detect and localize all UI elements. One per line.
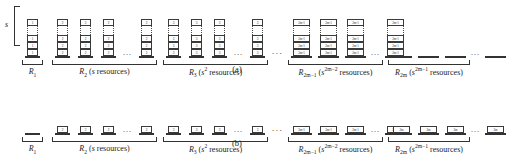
resource-cell: 3 [191,35,202,42]
resource-cell: 2 [141,19,152,26]
resource-cell: 2m-1 [347,35,364,42]
resource-cell: 2m-1 [293,35,310,42]
resource-cell: 2m-1 [293,126,310,133]
resource-stack: 2m [485,126,506,135]
resource-cell: 3 [214,35,225,42]
stack-base [485,56,506,58]
resource-cell: 2m-1 [293,49,310,56]
resource-cell: 3 [214,49,225,56]
resource-stack: 2 [55,126,70,135]
resource-cell: 2m-1 [347,42,364,49]
resource-cell: 2m-1 [347,19,364,26]
resource-cell: 2m-1 [320,35,337,42]
resource-cell: 3 [252,19,263,26]
height-brace-label: s [5,20,8,29]
resource-stack: 3 [250,126,265,135]
resource-cell: 2 [80,35,91,42]
resource-stack: 2m-12m-12m-12m-1 [345,19,366,58]
stack-gap-dots [57,26,68,35]
resource-stack: 2 [139,126,154,135]
stack-gap-dots [347,26,364,35]
stack-base [139,56,154,58]
stack-base [55,133,70,135]
resource-cell: 3 [168,42,179,49]
resource-cell: 2 [103,35,114,42]
resource-cell: 2 [103,126,114,133]
stack-row: 333...3 [163,125,268,135]
stack-base [485,133,506,135]
height-brace [14,6,20,46]
inline-ellipsis: ... [469,48,482,58]
stack-base [291,56,312,58]
resource-cell: 3 [252,42,263,49]
stack-row: 2m2m2m...2m [388,125,470,135]
resource-cell: 2 [141,35,152,42]
resource-cell: 1 [27,19,38,26]
group-separator-ellipsis: ... [272,123,283,133]
stack-row: 222222222222...2222 [52,19,157,58]
resource-stack: 2m [445,126,466,135]
resource-cell: 1 [27,49,38,56]
resource-cell: 2m [393,126,410,133]
resource-stack: 2222 [101,19,116,58]
stack-base [291,133,312,135]
resource-cell: 2m-1 [320,42,337,49]
resource-cell: 2m-1 [347,126,364,133]
resource-cell: 2m [420,126,437,133]
stack-base [189,133,204,135]
stack-row: 1111 [22,19,43,58]
stack-base [318,133,339,135]
resource-cell: 2 [57,49,68,56]
resource-cell: 2 [57,126,68,133]
inline-ellipsis: ... [121,125,134,135]
resource-stack: 2m-12m-12m-12m-1 [291,19,312,58]
resource-cell: 2m-1 [320,49,337,56]
resource-cell: 2m [447,126,464,133]
stack-base [78,133,93,135]
resource-cell: 3 [252,49,263,56]
stack-base [25,133,40,135]
stack-base [212,56,227,58]
resource-cell: 3 [168,35,179,42]
resource-stack [445,56,466,58]
resource-cell: 2 [57,19,68,26]
resource-stack: 2222 [78,19,93,58]
inline-ellipsis: ... [232,48,245,58]
resource-cell: 2 [80,19,91,26]
stack-gap-dots [103,26,114,35]
resource-stack: 2m-1 [291,126,312,135]
stack-gap-dots [80,26,91,35]
resource-cell: 2 [80,49,91,56]
stack-base [391,133,412,135]
resource-cell: 3 [214,126,225,133]
stack-base [139,133,154,135]
inline-ellipsis: ... [369,48,382,58]
resource-cell: 2 [103,42,114,49]
stack-gap-dots [27,26,38,35]
stack-row [22,133,43,135]
resource-cell: 3 [252,126,263,133]
stack-base [345,56,366,58]
resource-stack: 1111 [25,19,40,58]
caption-panel-b: (b) [0,138,474,148]
resource-stack: 2m-1 [318,126,339,135]
resource-cell: 2 [141,42,152,49]
stack-gap-dots [191,26,202,35]
resource-cell: 2 [141,126,152,133]
resource-stack: 2m [391,126,412,135]
inline-ellipsis: ... [369,125,382,135]
resource-cell: 2 [103,19,114,26]
resource-stack [418,56,439,58]
stack-base [212,133,227,135]
stack-base [55,56,70,58]
stack-gap-dots [141,26,152,35]
resource-cell: 3 [168,19,179,26]
resource-cell: 3 [214,42,225,49]
caption-panel-a: (a) [0,64,474,74]
resource-cell: 2m-1 [320,126,337,133]
resource-cell: 3 [168,126,179,133]
resource-stack: 2 [101,126,116,135]
resource-stack: 2 [78,126,93,135]
stack-base [445,133,466,135]
stack-row: 2m-12m-12m-12m-12m-12m-12m-12m-12m-12m-1… [288,19,383,58]
